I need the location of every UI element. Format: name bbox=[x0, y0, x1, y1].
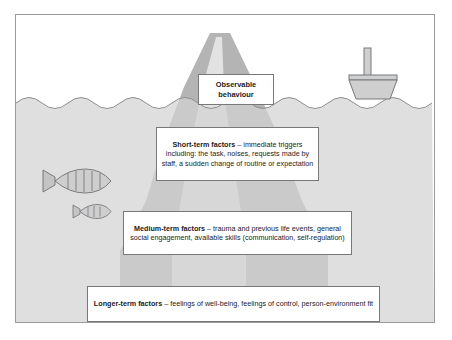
fish-body-small bbox=[80, 205, 111, 219]
scene: Observable behaviour Short-term factors … bbox=[16, 15, 434, 322]
longer-term-dash: – bbox=[162, 299, 170, 308]
medium-term-heading: Medium-term factors bbox=[134, 224, 205, 233]
fish-tail bbox=[43, 170, 55, 192]
medium-term-factors-box: Medium-term factors – trauma and previou… bbox=[123, 211, 352, 255]
illustration-frame: Observable behaviour Short-term factors … bbox=[15, 14, 435, 323]
illustration-stage: Observable behaviour Short-term factors … bbox=[0, 0, 452, 340]
medium-term-dash: – bbox=[205, 224, 213, 233]
short-term-factors-box: Short-term factors – immediate triggers … bbox=[156, 127, 319, 181]
longer-term-body: feelings of well-being, feelings of cont… bbox=[170, 299, 373, 308]
fish-icon bbox=[43, 169, 111, 193]
fish-body bbox=[55, 169, 111, 193]
fish-tail-small bbox=[73, 205, 80, 218]
observable-line-2: behaviour bbox=[218, 90, 253, 99]
observable-line-1: Observable bbox=[216, 80, 256, 89]
fish-icon-small bbox=[73, 205, 111, 219]
observable-behaviour-box: Observable behaviour bbox=[198, 74, 274, 105]
longer-term-heading: Longer-term factors bbox=[94, 299, 162, 308]
longer-term-factors-box: Longer-term factors – feelings of well-b… bbox=[87, 286, 380, 322]
short-term-heading: Short-term factors bbox=[173, 140, 236, 149]
